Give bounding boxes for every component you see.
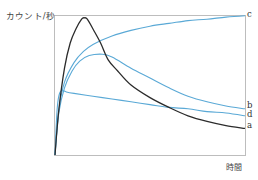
curve-d bbox=[55, 90, 245, 155]
chart-canvas bbox=[0, 0, 258, 180]
curves-group bbox=[55, 16, 245, 155]
curve-label-d: d bbox=[247, 110, 252, 119]
x-axis-title: 時間 bbox=[226, 161, 242, 172]
curve-a bbox=[55, 18, 245, 155]
plot-frame bbox=[55, 16, 246, 156]
y-axis-title: カウント/秒 bbox=[6, 9, 55, 21]
curve-c bbox=[55, 16, 245, 155]
curve-label-c: c bbox=[247, 10, 252, 19]
curve-label-a: a bbox=[247, 121, 252, 130]
